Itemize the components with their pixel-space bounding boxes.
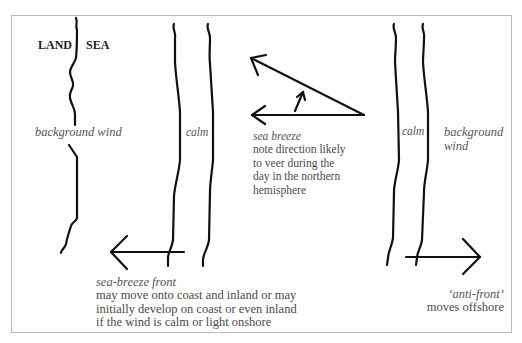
- background-wind-right-label: background wind: [444, 125, 503, 153]
- sea-breeze-front-line: initially develop on coast or even inlan…: [96, 303, 297, 316]
- background-wind-right-line: background: [444, 125, 503, 139]
- front-line-a: [168, 24, 180, 266]
- anti-front-arrow: [406, 239, 480, 274]
- land-label: LAND: [38, 39, 72, 52]
- sea-breeze-front-line: may move onto coast and inland or may: [96, 289, 297, 302]
- anti-front-line-c: [387, 24, 399, 265]
- background-wind-left-label: background wind: [35, 126, 122, 139]
- calm-left-label: calm: [186, 126, 208, 139]
- sea-breeze-line: note direction likely: [253, 143, 346, 156]
- anti-front-line-d: [416, 24, 428, 265]
- sea-breeze-line: to veer during the: [253, 157, 346, 170]
- background-wind-right-line: wind: [444, 139, 503, 153]
- sea-breeze-front-line: if the wind is calm or light onshore: [96, 316, 297, 329]
- sea-breeze-front-title: sea-breeze front: [96, 276, 297, 289]
- front-line-b: [203, 24, 213, 266]
- sea-breeze-front-note: sea-breeze front may move onto coast and…: [96, 276, 297, 330]
- sea-breeze-title: sea breeze: [253, 130, 346, 143]
- sea-breeze-note: sea breeze note direction likely to veer…: [253, 130, 346, 197]
- sea-label: SEA: [86, 39, 109, 52]
- anti-front-title: ‘anti-front’: [411, 288, 504, 301]
- anti-front-note: ‘anti-front’ moves offshore: [411, 288, 504, 315]
- sea-breeze-arrows: [251, 55, 364, 124]
- sea-breeze-line: hemisphere: [253, 184, 346, 197]
- calm-right-label: calm: [402, 125, 424, 138]
- anti-front-line: moves offshore: [411, 301, 504, 314]
- sea-breeze-line: day in the northern: [253, 170, 346, 183]
